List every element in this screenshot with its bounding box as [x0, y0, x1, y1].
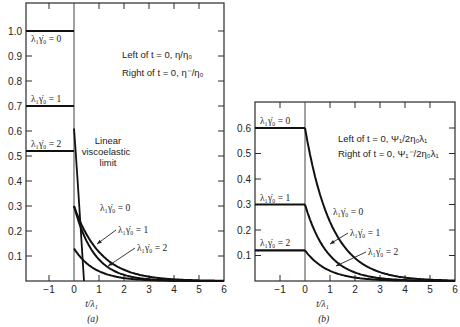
x-tick-label: 0: [71, 284, 77, 295]
curve-label: λ₁γ̇₀ = 1: [118, 225, 149, 235]
curve-label: λ₁γ̇₀ = 0: [333, 207, 364, 217]
panel-caption: (b): [318, 314, 329, 325]
x-tick-label: 4: [171, 284, 177, 295]
x-tick-label: −1: [43, 284, 55, 295]
linear-limit-label: viscoelastic: [82, 146, 131, 157]
steady-level-label: λ₁γ̇₀ = 1: [31, 94, 62, 104]
y-tick-label: 0.5: [8, 151, 22, 162]
arrowhead-icon: [97, 240, 102, 244]
legend-note: Left of t = 0, η/η₀: [122, 49, 192, 60]
legend-note: Left of t = 0, Ψ₁/2η₀λ₁: [338, 133, 427, 144]
x-axis-label: t/λ₁: [85, 299, 98, 309]
curve-label: λ₁γ̇₀ = 1: [350, 228, 381, 238]
x-tick-label: 5: [196, 284, 202, 295]
steady-level-label: λ₁γ̇₀ = 2: [31, 139, 62, 149]
arrow-icon: [108, 248, 135, 266]
linear-limit-label: limit: [100, 157, 117, 168]
y-tick-label: 0.9: [8, 51, 22, 62]
arrowhead-icon: [330, 240, 335, 244]
steady-level-label: λ₁γ̇₀ = 0: [31, 34, 62, 44]
panel-caption: (a): [87, 314, 98, 325]
y-tick-label: 0.2: [8, 226, 22, 237]
y-tick-label: 0.1: [8, 251, 22, 262]
x-tick-label: 1: [96, 284, 102, 295]
y-tick-label: 0.2: [237, 225, 251, 236]
x-axis-label: t/λ₁: [316, 299, 329, 309]
y-tick-label: 0.3: [237, 199, 251, 210]
x-tick-label: 3: [377, 284, 383, 295]
y-tick-label: 0.3: [8, 201, 22, 212]
x-tick-label: 2: [121, 284, 127, 295]
curve-label: λ₁γ̇₀ = 0: [100, 203, 131, 213]
x-tick-label: 1: [327, 284, 333, 295]
curve-label: λ₁γ̇₀ = 2: [368, 247, 399, 257]
y-tick-label: 0.7: [8, 101, 22, 112]
y-tick-label: 0.1: [237, 250, 251, 261]
x-tick-label: 6: [221, 284, 227, 295]
chart-panel-a: −101234560.10.20.30.40.50.60.70.80.91.0λ…: [8, 3, 227, 325]
x-tick-label: 0: [302, 284, 308, 295]
x-tick-label: 4: [402, 284, 408, 295]
x-tick-label: −1: [274, 284, 286, 295]
y-tick-label: 0.4: [8, 176, 22, 187]
y-tick-label: 0.6: [237, 123, 251, 134]
x-tick-label: 6: [452, 284, 458, 295]
y-tick-label: 0.4: [237, 174, 251, 185]
curve-label: λ₁γ̇₀ = 2: [137, 243, 168, 253]
steady-level-label: λ₁γ̇₀ = 1: [260, 193, 291, 203]
x-tick-label: 2: [352, 284, 358, 295]
y-tick-label: 1.0: [8, 26, 22, 37]
linear-limit-label: Linear: [95, 135, 121, 146]
y-tick-label: 0.5: [237, 148, 251, 159]
y-tick-label: 0.6: [8, 126, 22, 137]
x-tick-label: 5: [427, 284, 433, 295]
figure-root: −101234560.10.20.30.40.50.60.70.80.91.0λ…: [0, 0, 460, 327]
legend-note: Right of t = 0, η⁻/η₀: [122, 67, 204, 78]
chart-panel-b: −101234560.10.20.30.40.50.6λ₁γ̇₀ = 0λ₁γ̇…: [237, 102, 458, 325]
legend-note: Right of t = 0, Ψ₁⁻/2η₀λ₁: [338, 148, 439, 159]
steady-level-label: λ₁γ̇₀ = 0: [260, 116, 291, 126]
x-tick-label: 3: [146, 284, 152, 295]
steady-level-label: λ₁γ̇₀ = 2: [260, 238, 291, 248]
y-tick-label: 0.8: [8, 76, 22, 87]
